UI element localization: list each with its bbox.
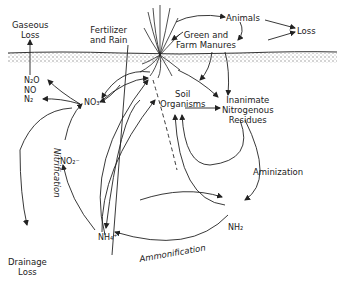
residues-line2: Nitrogenous xyxy=(222,105,274,115)
drainage-line1: Drainage xyxy=(8,257,47,267)
gaseous-loss-line1: Gaseous xyxy=(12,20,48,30)
n2o-label: N₂O xyxy=(24,76,40,86)
soil-organisms-line1: Soil xyxy=(160,89,206,99)
soil-organisms-label: Soil Organisms xyxy=(160,89,206,109)
no-label: NO xyxy=(24,86,40,96)
residues-line1: Inanimate xyxy=(222,95,274,105)
drainage-line2: Loss xyxy=(8,267,47,277)
manures-label: Green and Farm Manures xyxy=(176,30,236,50)
animals-label: Animals xyxy=(226,13,260,23)
manures-line2: Farm Manures xyxy=(176,40,236,50)
gas-species-label: N₂O NO N₂ xyxy=(24,76,40,105)
drainage-loss-label: Drainage Loss xyxy=(8,257,47,277)
fertilizer-rain-label: Fertilizer and Rain xyxy=(90,25,127,45)
gaseous-loss-label: Gaseous Loss xyxy=(12,20,48,40)
plant-icon xyxy=(140,5,180,78)
ammonification-label: Ammonification xyxy=(138,242,207,264)
nitrification-label: Nitrification xyxy=(52,148,62,198)
fertilizer-line2: and Rain xyxy=(90,35,127,45)
residues-line3: Residues xyxy=(222,115,274,125)
n2-label: N₂ xyxy=(24,95,40,105)
nitrate-label: NO₃⁻ xyxy=(84,98,104,108)
gaseous-loss-line2: Loss xyxy=(12,30,48,40)
fertilizer-line1: Fertilizer xyxy=(90,25,127,35)
loss-label: Loss xyxy=(297,26,316,36)
manures-line1: Green and xyxy=(176,30,236,40)
nitrite-label: NO₂⁻ xyxy=(60,157,80,167)
soil-surface xyxy=(8,52,337,63)
ammonium-label: NH₄⁺ xyxy=(98,233,117,243)
nh2-label: NH₂ xyxy=(228,223,243,233)
nitrogen-cycle-diagram: Nitrification Ammonification xyxy=(0,0,337,286)
aminization-label: Aminization xyxy=(253,167,303,177)
soil-organisms-line2: Organisms xyxy=(160,99,206,109)
residues-label: Inanimate Nitrogenous Residues xyxy=(222,95,274,125)
